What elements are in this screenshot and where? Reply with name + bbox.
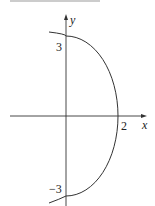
x-intercept-label: 2 [121, 119, 127, 133]
y-top-label: 3 [56, 40, 62, 54]
y-bottom-label: −3 [49, 182, 62, 196]
y-axis-arrow-icon [64, 14, 68, 20]
y-axis-label: y [69, 13, 76, 27]
graph-canvas: y x 2 3 −3 [0, 0, 155, 206]
x-axis-label: x [141, 118, 148, 132]
ellipse-curve [49, 32, 118, 203]
